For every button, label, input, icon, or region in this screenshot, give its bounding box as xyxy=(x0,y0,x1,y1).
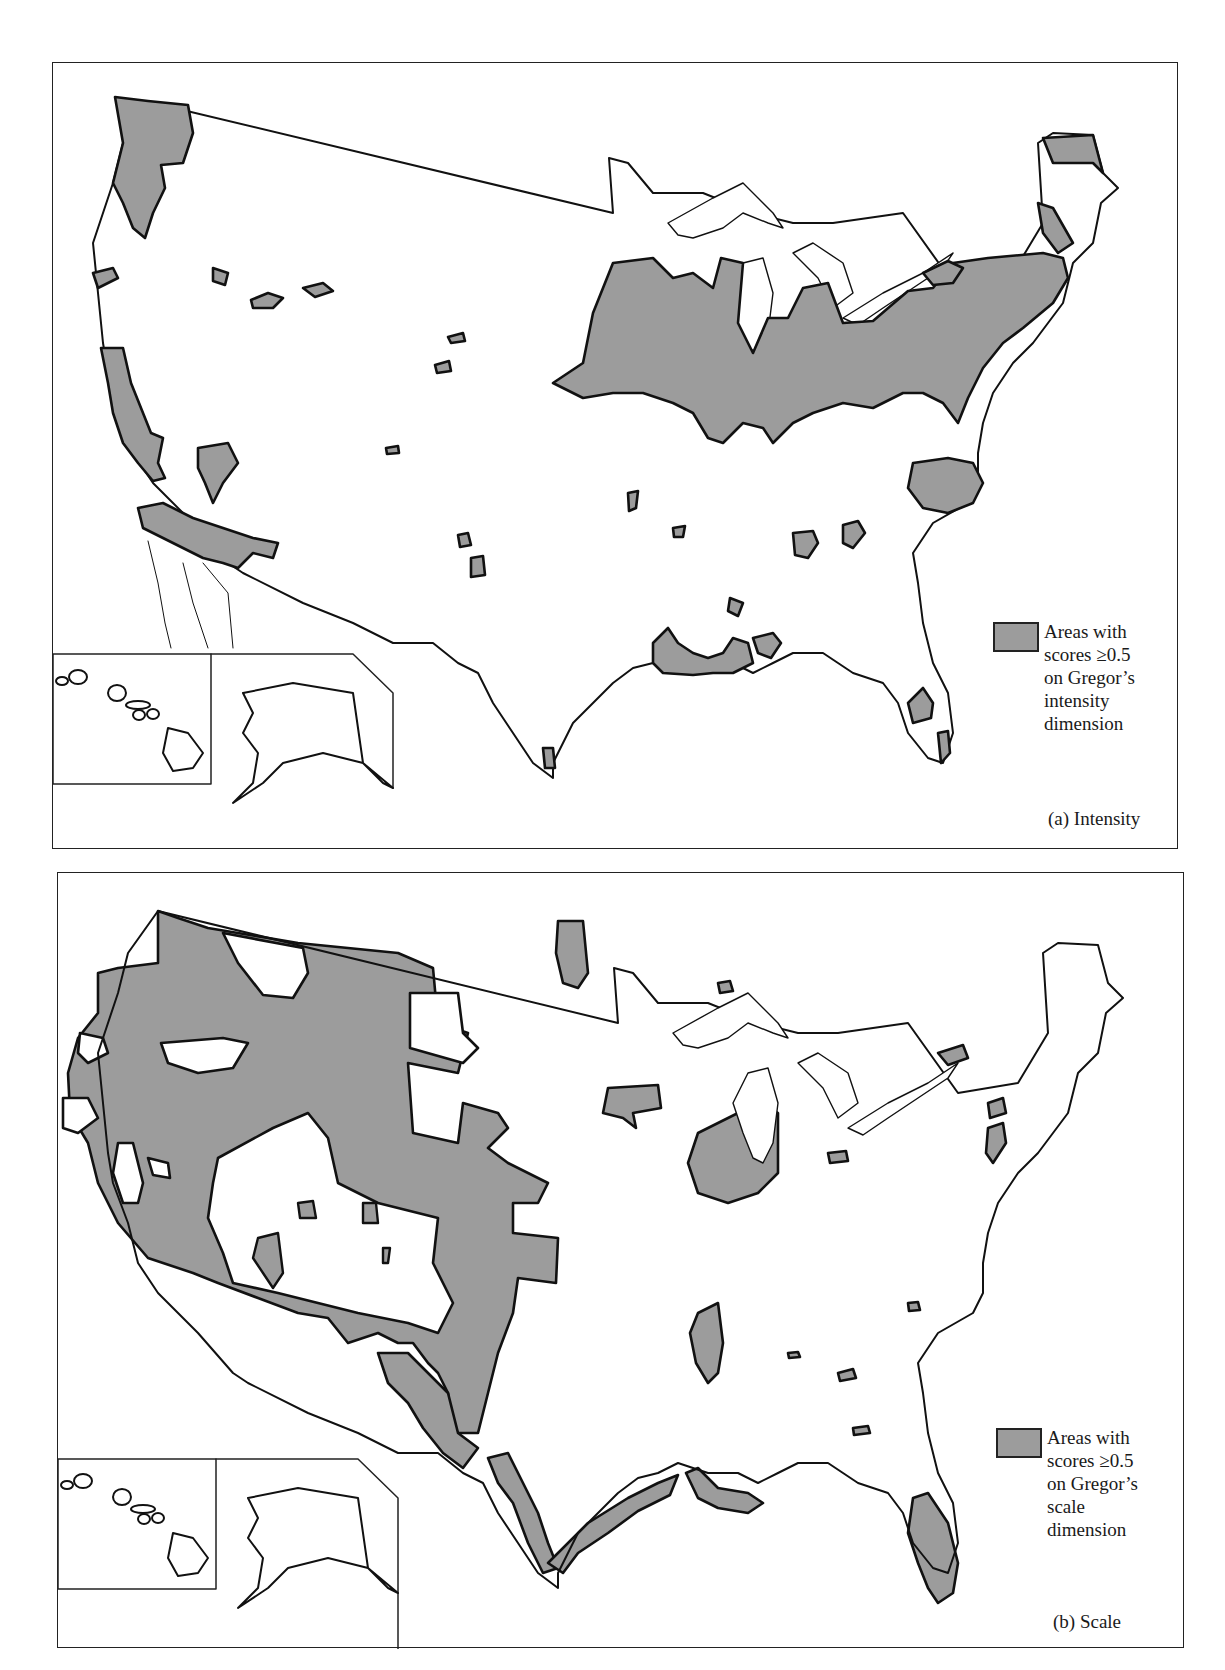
region-ga-dot xyxy=(908,1302,920,1311)
region-tx-south xyxy=(543,748,555,768)
region-louisiana-coast xyxy=(686,1468,763,1513)
region-nc xyxy=(908,458,983,513)
region-ar xyxy=(628,491,638,511)
panel-caption: (a) Intensity xyxy=(1048,808,1140,830)
region-mn-nd xyxy=(556,921,588,988)
region-maine-south xyxy=(1038,203,1073,253)
shaded-areas-scale xyxy=(68,911,1006,1603)
region-al-small xyxy=(838,1369,856,1381)
region-montana-2 xyxy=(303,283,333,297)
region-oregon-coast xyxy=(93,268,118,288)
legend-swatch xyxy=(996,1428,1042,1458)
region-al-dot xyxy=(788,1352,800,1358)
region-ga xyxy=(843,521,865,548)
region-ok-1 xyxy=(458,533,471,547)
region-ky-dot xyxy=(828,1151,848,1163)
legend-intensity: Areas with scores ≥0.5 on Gregor’s inten… xyxy=(993,620,1184,735)
alaska-outline xyxy=(233,683,393,803)
lake-huron xyxy=(798,1053,858,1118)
region-fl-east xyxy=(938,731,950,763)
region-basin-4 xyxy=(383,1248,390,1263)
region-basin-2 xyxy=(298,1201,316,1218)
region-iowa xyxy=(603,1085,661,1128)
hawaii-islands xyxy=(56,670,203,771)
region-ne xyxy=(435,361,451,373)
region-sd xyxy=(448,333,465,343)
region-tx-1 xyxy=(471,556,485,577)
region-california-coast xyxy=(101,348,165,481)
legend-text: Areas with scores ≥0.5 on Gregor’s scale… xyxy=(1047,1426,1187,1541)
region-fl-central xyxy=(908,688,933,723)
mexico-border-lines xyxy=(148,541,171,648)
legend-swatch xyxy=(993,622,1039,652)
map-panel-intensity: Areas with scores ≥0.5 on Gregor’s inten… xyxy=(52,62,1178,849)
region-long-island xyxy=(986,1123,1006,1163)
region-ks xyxy=(386,446,399,454)
region-maine-north xyxy=(1043,135,1103,173)
region-gulf-mobile xyxy=(753,633,781,658)
hawaii-islands xyxy=(61,1474,208,1576)
region-gulf-louisiana xyxy=(653,628,753,675)
map-panel-scale: Areas with scores ≥0.5 on Gregor’s scale… xyxy=(57,872,1184,1648)
region-ontario-shore xyxy=(938,1045,968,1065)
region-fl-peninsula xyxy=(908,1493,958,1603)
region-al-1 xyxy=(793,531,818,558)
region-la-interior xyxy=(728,598,743,616)
us-outline xyxy=(93,101,1118,778)
region-sierra xyxy=(198,443,238,503)
lake-superior xyxy=(668,183,783,238)
region-montana-1 xyxy=(251,293,283,308)
region-manufacturing-belt xyxy=(553,253,1068,443)
panel-caption: (b) Scale xyxy=(1053,1611,1121,1633)
region-ms xyxy=(673,526,685,537)
lake-erie-ontario xyxy=(848,1063,958,1135)
lake-superior xyxy=(673,993,788,1048)
region-texas-coast xyxy=(548,1475,678,1573)
region-mississippi-delta xyxy=(690,1303,723,1383)
region-idaho-1 xyxy=(213,268,228,285)
region-socal xyxy=(138,503,278,568)
region-pacific-nw xyxy=(113,97,193,238)
legend-scale: Areas with scores ≥0.5 on Gregor’s scale… xyxy=(996,1426,1187,1541)
region-lake-superior-dot xyxy=(718,981,733,993)
legend-text: Areas with scores ≥0.5 on Gregor’s inten… xyxy=(1044,620,1184,735)
alaska-outline xyxy=(238,1488,398,1608)
shaded-areas-intensity xyxy=(93,97,1103,768)
region-gulf-dot xyxy=(853,1426,870,1435)
region-delmarva xyxy=(988,1098,1006,1118)
region-basin-3 xyxy=(363,1203,378,1223)
